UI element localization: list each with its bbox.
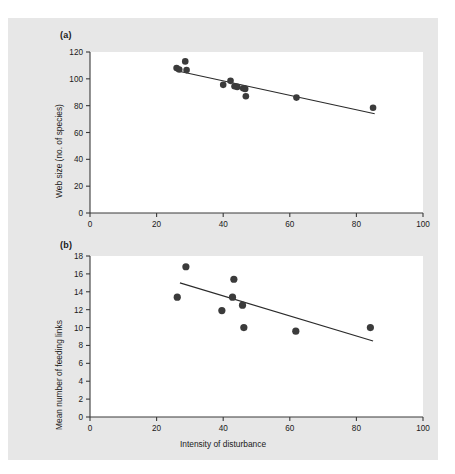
- svg-text:80: 80: [352, 424, 362, 433]
- data-point: [240, 324, 247, 331]
- figure-root: (a) Web size (no. of species) 0204060801…: [0, 0, 455, 474]
- svg-text:100: 100: [416, 424, 430, 433]
- svg-text:10: 10: [74, 324, 84, 333]
- data-point: [243, 93, 250, 100]
- data-point: [182, 263, 189, 270]
- data-point: [234, 84, 241, 91]
- data-point: [176, 66, 183, 73]
- data-point: [229, 294, 236, 301]
- panel-a-plot: 020406080100120020406080100: [8, 18, 438, 234]
- svg-text:60: 60: [285, 220, 295, 229]
- svg-text:60: 60: [285, 424, 295, 433]
- svg-text:100: 100: [416, 220, 430, 229]
- svg-text:4: 4: [78, 377, 83, 386]
- data-point: [182, 58, 189, 65]
- svg-text:0: 0: [88, 220, 93, 229]
- data-point: [367, 324, 374, 331]
- svg-text:2: 2: [78, 395, 83, 404]
- svg-text:0: 0: [78, 209, 83, 218]
- svg-text:0: 0: [78, 413, 83, 422]
- svg-text:14: 14: [74, 288, 84, 297]
- svg-text:120: 120: [69, 48, 83, 57]
- svg-text:0: 0: [88, 424, 93, 433]
- svg-text:6: 6: [78, 359, 83, 368]
- data-point: [220, 82, 227, 89]
- data-point: [230, 276, 237, 283]
- data-point: [239, 302, 246, 309]
- data-point: [370, 104, 377, 111]
- svg-text:40: 40: [74, 155, 84, 164]
- svg-text:18: 18: [74, 252, 84, 261]
- panel-a: (a) Web size (no. of species) 0204060801…: [8, 18, 438, 234]
- svg-text:100: 100: [69, 75, 83, 84]
- svg-text:60: 60: [74, 129, 84, 138]
- data-point: [242, 86, 249, 93]
- svg-text:20: 20: [152, 220, 162, 229]
- svg-text:12: 12: [74, 306, 84, 315]
- panel-b-x-axis-title: Intensity of disturbance: [68, 439, 378, 449]
- svg-text:20: 20: [74, 182, 84, 191]
- svg-text:80: 80: [352, 220, 362, 229]
- svg-text:40: 40: [219, 424, 229, 433]
- svg-text:16: 16: [74, 270, 84, 279]
- data-point: [174, 294, 181, 301]
- svg-text:8: 8: [78, 341, 83, 350]
- data-point: [218, 307, 225, 314]
- data-point: [183, 67, 190, 74]
- data-point: [292, 328, 299, 335]
- svg-text:80: 80: [74, 102, 84, 111]
- panel-b-plot: 024681012141618020406080100: [8, 234, 438, 460]
- svg-text:40: 40: [219, 220, 229, 229]
- data-point: [227, 78, 234, 85]
- panel-b: (b) Mean number of feeding links 0246810…: [8, 234, 438, 460]
- data-point: [293, 94, 300, 101]
- svg-text:20: 20: [152, 424, 162, 433]
